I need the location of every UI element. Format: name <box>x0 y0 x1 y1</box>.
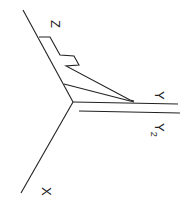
y-axis-line <box>73 102 178 104</box>
y2-axis-label: Y2 <box>149 123 167 137</box>
stepped-profile <box>39 37 134 101</box>
z-axis-line <box>23 10 73 102</box>
z-axis-label: Z <box>48 20 63 28</box>
axes-diagram: Z Y Y2 X <box>0 0 180 224</box>
x-axis-label: X <box>39 187 54 196</box>
y-axis-label: Y <box>152 91 167 100</box>
y2-axis-line <box>79 111 180 113</box>
x-axis-line <box>21 102 73 193</box>
lower-wedge-line <box>64 84 134 102</box>
